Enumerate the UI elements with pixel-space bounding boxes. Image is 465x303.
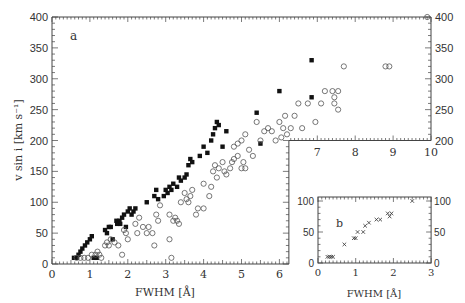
- svg-text:10: 10: [424, 146, 438, 159]
- panel-b-label: b: [336, 217, 343, 230]
- svg-text:50: 50: [434, 227, 446, 238]
- svg-text:7: 7: [314, 146, 321, 159]
- svg-text:250: 250: [435, 104, 453, 116]
- svg-text:0: 0: [42, 258, 48, 270]
- svg-text:1: 1: [353, 267, 359, 278]
- svg-text:0: 0: [308, 258, 314, 269]
- svg-text:3: 3: [162, 268, 169, 281]
- svg-text:350: 350: [435, 42, 453, 54]
- y-axis-label: v sin i [km s⁻¹]: [12, 99, 25, 182]
- svg-text:50: 50: [303, 227, 315, 238]
- panel-a-label: a: [70, 29, 77, 43]
- svg-text:0: 0: [49, 268, 56, 281]
- svg-text:200: 200: [30, 135, 48, 147]
- chart-svg: 0123456789100501001502002002502503003003…: [0, 0, 465, 303]
- svg-text:9: 9: [390, 146, 397, 159]
- svg-text:200: 200: [435, 135, 453, 147]
- svg-text:4: 4: [200, 268, 207, 281]
- svg-text:8: 8: [352, 146, 359, 159]
- svg-text:100: 100: [434, 196, 451, 207]
- svg-text:350: 350: [30, 42, 48, 54]
- chart-figure: 0123456789100501001502002002502503003003…: [0, 0, 465, 303]
- svg-text:300: 300: [30, 73, 48, 85]
- svg-text:150: 150: [30, 165, 48, 177]
- svg-text:0: 0: [434, 258, 440, 269]
- x-axis-label-b: FWHM [Å]: [347, 288, 401, 299]
- svg-text:300: 300: [435, 73, 453, 85]
- svg-text:0: 0: [315, 267, 321, 278]
- svg-text:400: 400: [30, 11, 48, 23]
- svg-text:2: 2: [390, 267, 396, 278]
- svg-text:1: 1: [86, 268, 93, 281]
- svg-text:6: 6: [276, 268, 283, 281]
- svg-text:100: 100: [297, 196, 314, 207]
- svg-text:50: 50: [36, 227, 48, 239]
- svg-text:5: 5: [238, 268, 245, 281]
- x-axis-label-a: FWHM [Å]: [135, 285, 195, 299]
- svg-text:100: 100: [30, 196, 48, 208]
- svg-text:400: 400: [435, 11, 453, 23]
- svg-text:2: 2: [124, 268, 131, 281]
- svg-text:250: 250: [30, 104, 48, 116]
